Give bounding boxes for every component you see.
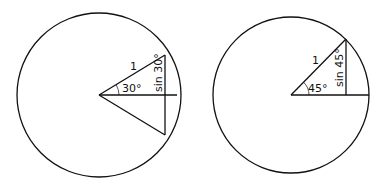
sine-label-45: sin 45° [333,48,346,87]
angle-arc-30 [116,85,119,95]
unit-circle-diagrams: 1 30° sin 30° 1 45° sin 45° [0,0,385,187]
diagram-30-degrees [17,13,181,177]
sine-label-30: sin 30° [152,53,165,92]
radius-label-left: 1 [130,60,137,73]
radius-label-right: 1 [312,54,319,67]
angle-label-45: 45° [308,82,328,95]
diagram-45-degrees [213,17,369,173]
angle-label-30: 30° [122,82,142,95]
radius-lower [99,95,165,135]
